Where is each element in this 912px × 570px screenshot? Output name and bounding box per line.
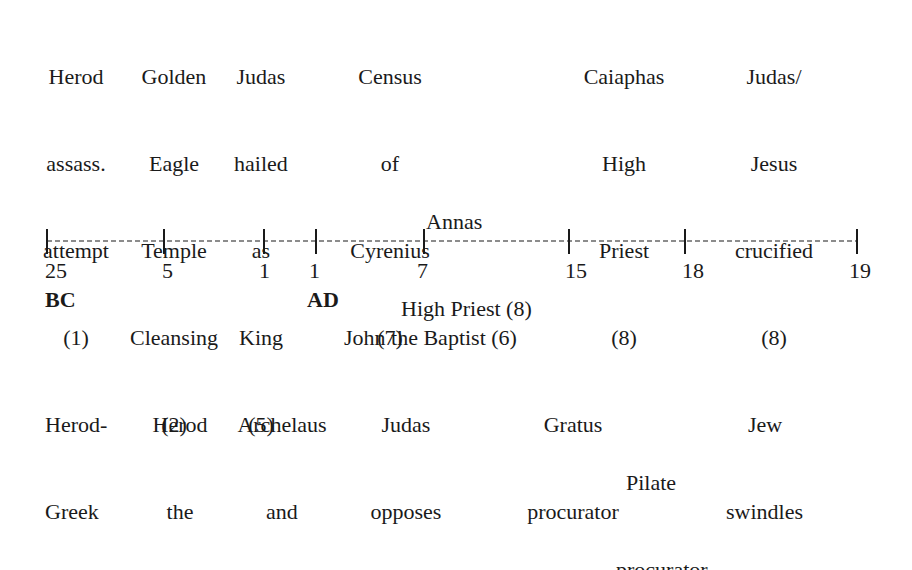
event-line: swindles [706, 497, 830, 526]
tick-label-25: 25 [45, 256, 67, 285]
tick-label-5: 5 [162, 256, 173, 285]
event-line: Judas [356, 410, 456, 439]
tick-label-18: 18 [682, 256, 704, 285]
event-line: and [226, 497, 338, 526]
event-judas-opposes-census-tax: Judas opposes census tax (7) [356, 352, 456, 570]
tick-label-7: 7 [417, 256, 428, 285]
event-line: Greek [40, 497, 140, 526]
event-line: Jew [706, 410, 830, 439]
era-label-bc: BC [45, 285, 76, 314]
event-jew-swindles-converted-jewess: Jew swindles converted Jewess in Rome (9… [706, 352, 830, 570]
tick-label-19: 19 [849, 256, 871, 285]
event-herod-the-great-dies: Herod the Great dies (3) [142, 352, 218, 570]
event-line: Archelaus [226, 410, 338, 439]
era-label-ad: AD [307, 285, 339, 314]
event-herod-greek-influence: Herod- Greek influence (1) [40, 352, 140, 570]
event-line: the [142, 497, 218, 526]
event-archelaus-and-barabbas: Archelaus and Barabbas (4) [226, 352, 338, 570]
event-line: Herod [142, 410, 218, 439]
tick-label-15: 15 [565, 256, 587, 285]
tick-label-1-ad: 1 [309, 256, 320, 285]
event-line: opposes [356, 497, 456, 526]
tick-label-1-bc: 1 [259, 256, 270, 285]
event-line: Herod- [40, 410, 140, 439]
event-john-the-baptist: John the Baptist (6) [344, 323, 517, 352]
